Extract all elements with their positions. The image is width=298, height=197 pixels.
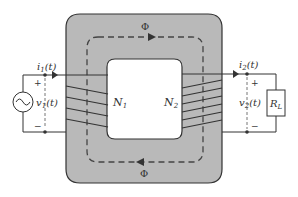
v1-label: v1(t) xyxy=(36,97,58,110)
v2-label: v2(t) xyxy=(239,97,261,110)
current-arrow-i2-icon xyxy=(233,70,239,78)
v2-minus: − xyxy=(251,121,259,131)
flux-label-bottom: Φ xyxy=(140,168,148,179)
terminal-dot xyxy=(245,72,249,76)
flux-label-top: Φ xyxy=(141,21,149,32)
v2-plus: + xyxy=(251,78,259,88)
transformer-diagram: Φ Φ i1(t) + − v1(t) N1 xyxy=(0,0,298,197)
n1-label: N1 xyxy=(112,96,127,110)
n2-label: N2 xyxy=(163,96,179,110)
current-arrow-i1-icon xyxy=(52,71,58,79)
i2-label: i2(t) xyxy=(239,59,259,72)
v1-plus: + xyxy=(34,78,42,88)
v1-minus: − xyxy=(34,121,42,131)
i1-label: i1(t) xyxy=(37,61,57,74)
magnetic-core xyxy=(66,14,222,183)
terminal-dot xyxy=(43,130,47,134)
terminal-dot xyxy=(245,130,249,134)
